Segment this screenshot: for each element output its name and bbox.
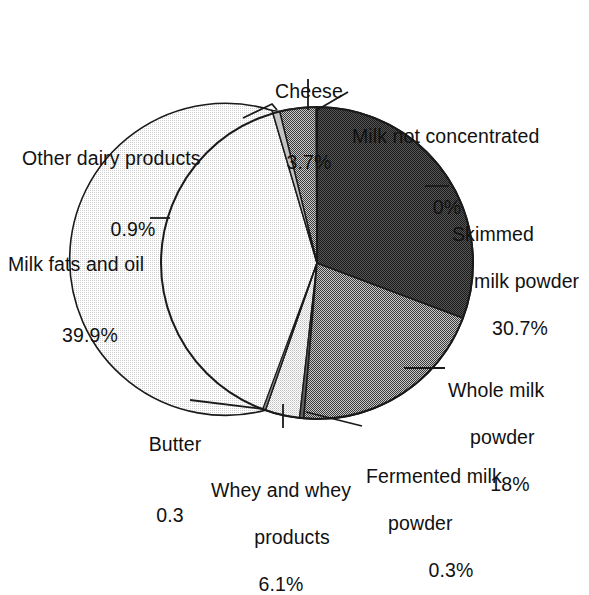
slice-label-butter: Butter 0.3 [122,386,228,574]
slice-label-other-dairy-products: Other dairy products 0.9% [22,100,264,288]
slice-label-other-dairy-products-name: Other dairy products [22,147,264,171]
slice-label-milk-not-concentrated-name: Milk not concentrated [352,125,588,149]
slice-label-skimmed-milk-powder-name: Skimmed [452,223,588,247]
slice-label-butter-value: 0.3 [122,504,218,528]
slice-label-cheese-value: 3.7% [249,151,369,175]
slice-label-whole-milk-powder-name: Whole milk [448,379,588,403]
slice-label-cheese-name: Cheese [249,80,369,104]
slice-label-butter-name: Butter [122,433,228,457]
slice-label-cheese: Cheese 3.7% [249,33,369,221]
slice-label-milk-fats-and-oil-value: 39.9% [8,324,172,348]
slice-label-whey-and-whey-products-name2: products [254,526,330,548]
slice-label-whey-and-whey-products-value: 6.1% [196,573,366,595]
slice-label-fermented-milk-powder-name2: powder [388,512,453,534]
slice-label-fermented-milk-powder-name: Fermented milk [366,465,546,489]
slice-label-skimmed-milk-powder-name2: milk powder [474,270,579,292]
slice-label-fermented-milk-powder-value: 0.3% [366,559,536,583]
slice-label-other-dairy-products-value: 0.9% [22,218,244,242]
slice-label-fermented-milk-powder: Fermented milk powder 0.3% [366,418,546,595]
